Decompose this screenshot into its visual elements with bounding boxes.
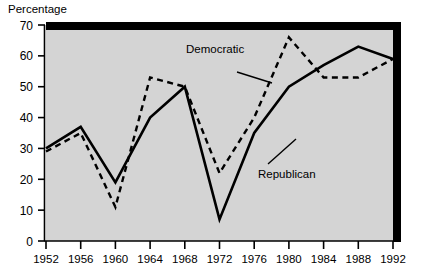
y-axis-tick-label: 60 xyxy=(20,49,34,63)
x-axis-tick-label: 1980 xyxy=(276,253,302,265)
x-axis-tick-label: 1972 xyxy=(207,253,233,265)
x-axis-tick-label: 1964 xyxy=(137,253,163,265)
chart-container: 010203040506070 195219561960196419681972… xyxy=(0,0,423,269)
y-axis-tick-label: 30 xyxy=(20,142,34,156)
plot-area xyxy=(46,30,393,241)
x-axis-tick-label: 1988 xyxy=(346,253,372,265)
x-axis-tick-label: 1992 xyxy=(380,253,406,265)
x-axis-tick-label: 1956 xyxy=(68,253,94,265)
x-axis-ticks xyxy=(46,241,393,249)
y-axis-tick-label: 10 xyxy=(20,204,34,218)
x-axis-tick-label: 1960 xyxy=(103,253,129,265)
annotation-republican: Republican xyxy=(258,168,316,180)
y-axis-title: Percentage xyxy=(8,3,67,15)
y-axis-tick-label: 70 xyxy=(20,19,34,33)
x-axis-tick-label: 1976 xyxy=(241,253,267,265)
x-axis-tick-labels: 1952195619601964196819721976198019841988… xyxy=(33,253,406,265)
annotation-democratic: Democratic xyxy=(186,43,244,55)
y-axis-tick-label: 40 xyxy=(20,111,34,125)
y-axis-tick-labels: 010203040506070 xyxy=(20,19,34,249)
y-axis-tick-label: 0 xyxy=(26,235,33,249)
x-axis-tick-label: 1968 xyxy=(172,253,198,265)
plot-shadow-top xyxy=(46,22,401,30)
x-axis-tick-label: 1984 xyxy=(311,253,337,265)
plot-shadow-right xyxy=(393,22,401,242)
y-axis-tick-label: 20 xyxy=(20,173,34,187)
x-axis-tick-label: 1952 xyxy=(33,253,59,265)
y-axis-tick-label: 50 xyxy=(20,80,34,94)
line-chart: 010203040506070 195219561960196419681972… xyxy=(0,0,423,269)
